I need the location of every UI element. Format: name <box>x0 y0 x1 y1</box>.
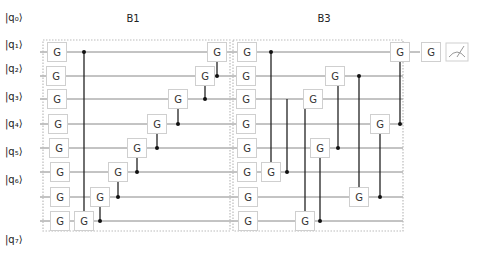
svg-text:G: G <box>96 192 104 203</box>
control-dot <box>357 74 361 78</box>
control-dot <box>82 50 86 54</box>
svg-text:G: G <box>243 167 251 178</box>
control-dot <box>203 97 207 101</box>
svg-text:G: G <box>244 216 252 227</box>
gate-g[interactable]: G <box>422 43 441 62</box>
gate-g[interactable]: G <box>237 115 256 134</box>
svg-text:G: G <box>53 47 61 58</box>
quantum-circuit: B1B3 GGGGGGGGGGGGGGGGGGGGGGGGGGGGGGGGG |… <box>0 0 479 257</box>
svg-text:G: G <box>309 94 317 105</box>
svg-text:G: G <box>244 192 252 203</box>
gate-g[interactable]: G <box>51 188 70 207</box>
svg-text:G: G <box>396 47 404 58</box>
control-dot <box>269 50 273 54</box>
gate-g[interactable]: G <box>326 67 345 86</box>
gate-g[interactable]: G <box>208 43 227 62</box>
svg-text:G: G <box>54 119 62 130</box>
control-dot <box>318 219 322 223</box>
svg-text:G: G <box>355 192 363 203</box>
gate-g[interactable]: G <box>237 90 256 109</box>
qubit-label: |q₃⟩ <box>5 91 23 103</box>
svg-text:G: G <box>174 94 182 105</box>
svg-text:G: G <box>427 47 435 58</box>
gate-g[interactable]: G <box>238 43 257 62</box>
svg-text:G: G <box>242 119 250 130</box>
svg-text:G: G <box>153 119 161 130</box>
qubit-label: |q₁⟩ <box>5 39 23 51</box>
svg-text:G: G <box>316 143 324 154</box>
svg-text:G: G <box>52 71 60 82</box>
gate-g[interactable]: G <box>239 188 258 207</box>
gate-g[interactable]: G <box>169 90 188 109</box>
svg-text:G: G <box>56 216 64 227</box>
svg-text:G: G <box>133 143 141 154</box>
qubit-label: |q₆⟩ <box>5 174 23 186</box>
control-dot <box>176 122 180 126</box>
gate-g[interactable]: G <box>296 212 315 231</box>
qubit-label: |q₀⟩ <box>5 12 23 24</box>
svg-text:G: G <box>56 167 64 178</box>
gate-g[interactable]: G <box>51 212 70 231</box>
gate-g[interactable]: G <box>48 90 67 109</box>
gate-g[interactable]: G <box>128 139 147 158</box>
gate-g[interactable]: G <box>304 90 323 109</box>
svg-text:G: G <box>56 192 64 203</box>
svg-text:G: G <box>243 143 251 154</box>
gate-g[interactable]: G <box>371 115 390 134</box>
gate-g[interactable]: G <box>239 212 258 231</box>
gate-g[interactable]: G <box>75 212 94 231</box>
svg-text:G: G <box>242 94 250 105</box>
control-dot <box>98 219 102 223</box>
gate-g[interactable]: G <box>237 67 256 86</box>
svg-text:G: G <box>213 47 221 58</box>
qubit-label: |q₇⟩ <box>5 234 23 246</box>
svg-text:G: G <box>53 94 61 105</box>
gate-g[interactable]: G <box>238 139 257 158</box>
svg-text:G: G <box>267 167 275 178</box>
gate-g[interactable]: G <box>49 115 68 134</box>
svg-text:G: G <box>201 71 209 82</box>
gate-g[interactable]: G <box>91 188 110 207</box>
svg-text:G: G <box>301 216 309 227</box>
block-label: B1 <box>126 13 139 24</box>
gate-g[interactable]: G <box>391 43 410 62</box>
control-dot <box>215 74 219 78</box>
gate-g[interactable]: G <box>51 163 70 182</box>
svg-text:G: G <box>114 167 122 178</box>
control-dot <box>285 170 289 174</box>
svg-text:G: G <box>376 119 384 130</box>
gate-g[interactable]: G <box>350 188 369 207</box>
meter-icon <box>446 43 468 61</box>
gate-g[interactable]: G <box>47 67 66 86</box>
gate-g[interactable]: G <box>148 115 167 134</box>
block-b3 <box>233 40 403 231</box>
qubit-labels: |q₀⟩|q₁⟩|q₂⟩|q₃⟩|q₄⟩|q₅⟩|q₆⟩|q₇⟩ <box>5 12 23 246</box>
control-dot <box>116 195 120 199</box>
gate-g[interactable]: G <box>109 163 128 182</box>
qubit-label: |q₄⟩ <box>5 118 23 130</box>
svg-text:G: G <box>80 216 88 227</box>
control-dot <box>336 146 340 150</box>
gate-g[interactable]: G <box>311 139 330 158</box>
svg-text:G: G <box>243 47 251 58</box>
block-label: B3 <box>317 13 330 24</box>
control-dot <box>135 170 139 174</box>
svg-text:G: G <box>55 143 63 154</box>
svg-text:G: G <box>242 71 250 82</box>
control-dot <box>378 195 382 199</box>
gate-g[interactable]: G <box>262 163 281 182</box>
control-dot <box>155 146 159 150</box>
control-dot <box>398 122 402 126</box>
gates: GGGGGGGGGGGGGGGGGGGGGGGGGGGGGGGGG <box>47 43 441 231</box>
qubit-label: |q₂⟩ <box>5 63 23 75</box>
qubit-label: |q₅⟩ <box>5 146 23 158</box>
gate-g[interactable]: G <box>50 139 69 158</box>
gate-g[interactable]: G <box>238 163 257 182</box>
gate-g[interactable]: G <box>48 43 67 62</box>
svg-text:G: G <box>331 71 339 82</box>
gate-g[interactable]: G <box>196 67 215 86</box>
